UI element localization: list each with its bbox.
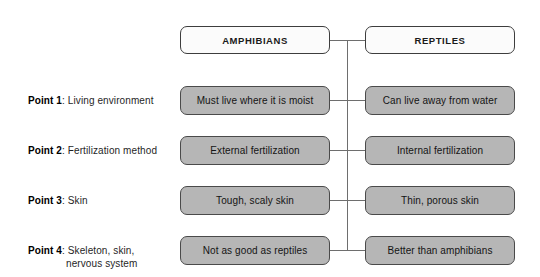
cell-amphibians-2-text: External fertilization	[210, 145, 299, 156]
row-label-1: Point 1: Living environment	[28, 94, 178, 107]
row-label-4-text: Skeleton, skin,	[68, 245, 135, 256]
cell-amphibians-1: Must live where it is moist	[180, 86, 330, 115]
cell-reptiles-3: Thin, porous skin	[365, 186, 515, 215]
row-label-2-prefix: Point 2	[28, 145, 62, 156]
column-header-reptiles: REPTILES	[365, 26, 515, 54]
row-label-4: Point 4: Skeleton, skin, nervous system	[28, 244, 178, 270]
cell-amphibians-1-text: Must live where it is moist	[197, 95, 314, 106]
row-label-2-text: Fertilization method	[68, 145, 157, 156]
cell-reptiles-1: Can live away from water	[365, 86, 515, 115]
connector-row-4	[330, 250, 365, 251]
cell-amphibians-2: External fertilization	[180, 136, 330, 165]
column-header-amphibians-label: AMPHIBIANS	[222, 35, 288, 46]
row-label-4-text-line2: nervous system	[28, 257, 178, 270]
connector-row-1	[330, 100, 365, 101]
row-label-1-text: Living environment	[68, 95, 154, 106]
comparison-diagram: AMPHIBIANS REPTILES Point 1: Living envi…	[0, 0, 540, 277]
row-label-4-prefix: Point 4	[28, 245, 62, 256]
row-label-1-prefix: Point 1	[28, 95, 62, 106]
cell-reptiles-4: Better than amphibians	[365, 236, 515, 265]
cell-reptiles-3-text: Thin, porous skin	[401, 195, 479, 206]
cell-reptiles-2: Internal fertilization	[365, 136, 515, 165]
cell-reptiles-4-text: Better than amphibians	[387, 245, 492, 256]
row-label-3-text: Skin	[68, 195, 88, 206]
cell-amphibians-4-text: Not as good as reptiles	[203, 245, 308, 256]
row-label-3: Point 3: Skin	[28, 194, 178, 207]
vertical-connector-line	[347, 40, 348, 251]
cell-amphibians-3-text: Tough, scaly skin	[216, 195, 294, 206]
cell-amphibians-4: Not as good as reptiles	[180, 236, 330, 265]
cell-amphibians-3: Tough, scaly skin	[180, 186, 330, 215]
connector-row-3	[330, 200, 365, 201]
column-header-amphibians: AMPHIBIANS	[180, 26, 330, 54]
row-label-2: Point 2: Fertilization method	[28, 144, 178, 157]
connector-row-2	[330, 150, 365, 151]
connector-header-right	[347, 40, 365, 41]
cell-reptiles-2-text: Internal fertilization	[397, 145, 483, 156]
cell-reptiles-1-text: Can live away from water	[383, 95, 498, 106]
row-label-3-prefix: Point 3	[28, 195, 62, 206]
column-header-reptiles-label: REPTILES	[415, 35, 466, 46]
